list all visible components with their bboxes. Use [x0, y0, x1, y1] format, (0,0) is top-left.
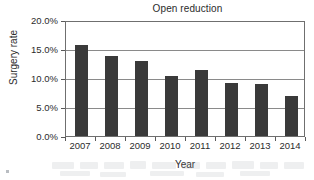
- scan-artifact-blob: [196, 172, 224, 177]
- x-tick-label-2014: 2014: [275, 140, 305, 151]
- x-axis-title: Year: [65, 159, 305, 170]
- bar-2007: [75, 45, 88, 136]
- bar-2012: [225, 83, 238, 136]
- y-axis-title: Surgery rate: [8, 18, 19, 98]
- bar-2009: [135, 61, 148, 136]
- gridline-15.0: [66, 50, 304, 51]
- x-tick-label-2008: 2008: [95, 140, 125, 151]
- plot-area: [65, 21, 305, 137]
- y-tick-label-20.0: 20.0%: [17, 15, 58, 26]
- y-tick-mark-20.0: [61, 21, 65, 22]
- x-tick-label-2007: 2007: [65, 140, 95, 151]
- x-tick-label-2013: 2013: [245, 140, 275, 151]
- chart-screenshot: Open reduction Surgery rate 0.0%5.0%10.0…: [0, 0, 314, 180]
- x-tick-label-2010: 2010: [155, 140, 185, 151]
- y-tick-label-10.0: 10.0%: [17, 73, 58, 84]
- gridline-5.0: [66, 108, 304, 109]
- scan-artifact-blob: [100, 172, 126, 177]
- y-tick-label-15.0: 15.0%: [17, 44, 58, 55]
- chart-title: Open reduction: [70, 3, 305, 14]
- bar-2010: [165, 76, 178, 136]
- y-tick-mark-15.0: [61, 50, 65, 51]
- x-tick-label-2009: 2009: [125, 140, 155, 151]
- x-tick-label-2012: 2012: [215, 140, 245, 151]
- scan-artifact-blob: [150, 171, 184, 176]
- bar-2013: [255, 84, 268, 136]
- gridline-10.0: [66, 79, 304, 80]
- bar-2008: [105, 56, 118, 136]
- y-tick-label-0.0: 0.0%: [17, 131, 58, 142]
- bar-2014: [285, 96, 298, 136]
- x-tick-label-2011: 2011: [185, 140, 215, 151]
- scan-artifact-blob: [240, 171, 270, 176]
- bar-2011: [195, 70, 208, 136]
- y-tick-label-5.0: 5.0%: [17, 102, 58, 113]
- y-tick-mark-10.0: [61, 79, 65, 80]
- x-tick-mark-8: [305, 137, 306, 141]
- scan-artifact-dot: [6, 170, 9, 173]
- scan-artifact-blob: [60, 171, 90, 176]
- y-tick-mark-5.0: [61, 108, 65, 109]
